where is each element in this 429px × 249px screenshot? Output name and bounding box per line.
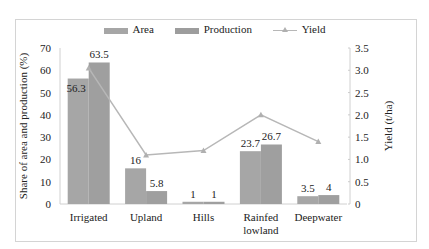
bar-production — [318, 195, 339, 204]
category-label: Irrigated — [70, 211, 108, 223]
bar-production — [146, 191, 167, 204]
category-label: lowland — [243, 224, 279, 236]
bar-value-label: 5.8 — [150, 177, 164, 189]
bar-production — [204, 202, 225, 204]
y-tick-label: 70 — [40, 42, 52, 54]
y-tick-label: 20 — [40, 153, 52, 165]
y2-tick-label: 3.0 — [355, 64, 369, 76]
y2-axis-title: Yield (t/ha) — [382, 100, 395, 151]
bar-value-label: 1 — [211, 188, 217, 200]
bar-area — [183, 202, 204, 204]
bar-value-label: 16 — [130, 154, 142, 166]
bar-production — [261, 144, 282, 204]
y2-tick-label: 2.5 — [355, 87, 369, 99]
y2-tick-label: 3.5 — [355, 42, 369, 54]
yield-marker-icon — [258, 112, 264, 118]
bar-area — [240, 151, 261, 204]
y2-tick-label: 0.5 — [355, 176, 369, 188]
y-axis-title: Share of area and production (%) — [17, 53, 30, 200]
bar-value-label: 3.5 — [301, 182, 315, 194]
bar-area — [68, 79, 89, 204]
y2-tick-label: 0 — [355, 198, 361, 210]
bar-area — [125, 168, 146, 204]
y2-tick-label: 1.5 — [355, 131, 369, 143]
bar-value-label: 26.7 — [262, 130, 282, 142]
y2-tick-label: 2.0 — [355, 109, 369, 121]
y-tick-label: 50 — [40, 87, 52, 99]
y-tick-label: 10 — [40, 176, 52, 188]
category-label: Upland — [130, 211, 163, 223]
category-label: Deepwater — [294, 211, 342, 223]
y-tick-label: 40 — [40, 109, 52, 121]
bar-value-label: 23.7 — [241, 137, 261, 149]
y-tick-label: 0 — [46, 198, 52, 210]
chart-plot: 01020304050607000.51.01.52.02.53.03.5Sha… — [0, 0, 429, 249]
category-label: Hills — [193, 211, 214, 223]
category-label: Rainfed — [243, 211, 278, 223]
bar-value-label: 1 — [190, 188, 196, 200]
bar-area — [297, 196, 318, 204]
bar-value-label: 56.3 — [67, 82, 87, 94]
bar-value-label: 4 — [326, 181, 332, 193]
y2-tick-label: 1.0 — [355, 153, 369, 165]
yield-line — [89, 68, 319, 155]
y-tick-label: 30 — [40, 131, 52, 143]
y-tick-label: 60 — [40, 64, 52, 76]
bar-value-label: 63.5 — [90, 48, 110, 60]
